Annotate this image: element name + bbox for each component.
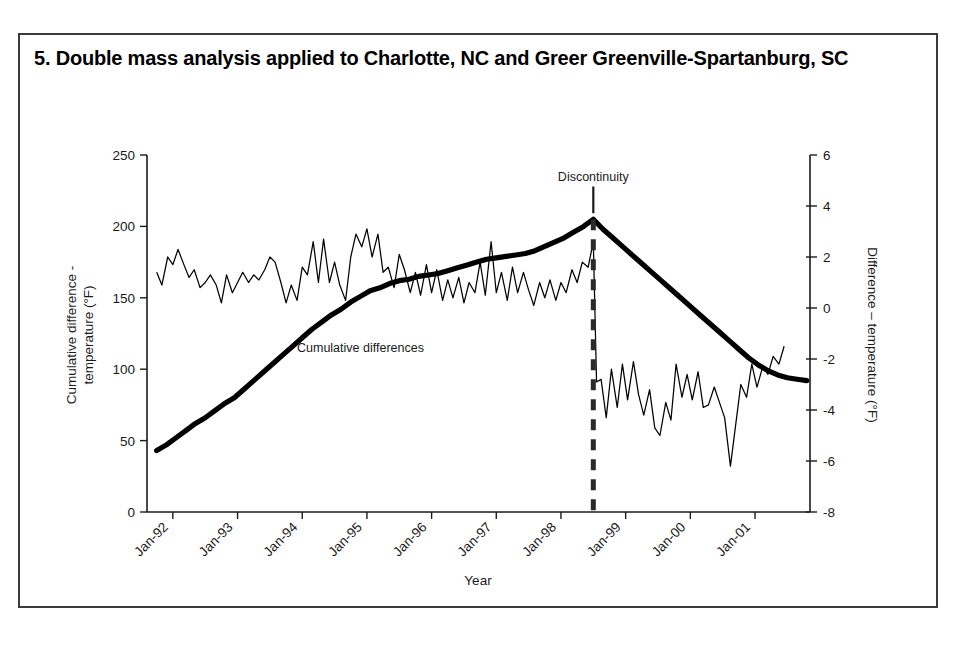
left-axis-title-line1: Cumulative difference - <box>64 266 79 405</box>
chart-plot-area: 250 200 150 100 50 0 Cumulative differen… <box>20 35 940 610</box>
x-tick-label: Jan-96 <box>390 520 430 560</box>
x-axis-title: Year <box>464 573 492 588</box>
right-tick-neg2: -2 <box>823 352 835 367</box>
right-tick-neg4: -4 <box>823 403 835 418</box>
right-axis-title: Difference – temperature (°F) <box>865 247 880 422</box>
x-tick-label: Jan-94 <box>261 519 301 559</box>
chart-svg: 250 200 150 100 50 0 Cumulative differen… <box>20 35 940 610</box>
x-tick-label: Jan-01 <box>713 520 753 560</box>
left-axis-ticks: 250 200 150 100 50 0 <box>112 148 147 520</box>
cumulative-differences-annotation: Cumulative differences <box>297 341 424 355</box>
left-tick-200: 200 <box>112 219 135 234</box>
right-tick-neg8: -8 <box>823 505 835 520</box>
right-tick-2: 2 <box>823 250 831 265</box>
x-tick-label: Jan-98 <box>519 520 559 560</box>
figure-panel: 5. Double mass analysis applied to Charl… <box>18 33 938 608</box>
left-axis-title: Cumulative difference - temperature (°F) <box>64 266 96 405</box>
x-tick-label: Jan-92 <box>131 520 171 560</box>
right-tick-6: 6 <box>823 148 831 163</box>
right-tick-neg6: -6 <box>823 454 835 469</box>
right-tick-4: 4 <box>823 199 831 214</box>
series-cumulative-line <box>157 219 807 450</box>
x-tick-label: Jan-97 <box>455 520 495 560</box>
left-tick-100: 100 <box>112 362 135 377</box>
left-tick-50: 50 <box>120 434 135 449</box>
right-tick-0: 0 <box>823 301 831 316</box>
x-tick-label: Jan-00 <box>649 520 689 560</box>
x-axis-ticks: Jan-92Jan-93Jan-94Jan-95Jan-96Jan-97Jan-… <box>131 512 755 559</box>
left-tick-150: 150 <box>112 291 135 306</box>
x-tick-label: Jan-93 <box>196 520 236 560</box>
left-tick-0: 0 <box>127 505 135 520</box>
x-tick-label: Jan-99 <box>584 520 624 560</box>
left-tick-250: 250 <box>112 148 135 163</box>
discontinuity-annotation: Discontinuity <box>558 170 630 184</box>
left-axis-title-line2: temperature (°F) <box>81 285 96 384</box>
x-tick-label: Jan-95 <box>325 520 365 560</box>
